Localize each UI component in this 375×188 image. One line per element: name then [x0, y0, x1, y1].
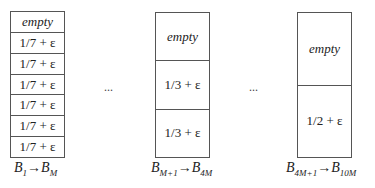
- label-from-base: B: [14, 160, 23, 175]
- bin-group-2: empty 1/3 + ε 1/3 + ε: [155, 12, 210, 158]
- arrow-icon: →: [317, 160, 331, 175]
- label-to-base: B: [41, 160, 50, 175]
- label-from-base: B: [151, 160, 160, 175]
- bin-cell-item: 1/3 + ε: [156, 60, 209, 108]
- label-from-sub: M+1: [160, 168, 178, 178]
- label-from-base: B: [286, 160, 295, 175]
- label-to-sub: 10M: [340, 168, 357, 178]
- bin-cell-item: 1/7 + ε: [11, 32, 64, 53]
- bin-group-3: empty 1/2 + ε: [297, 12, 352, 158]
- bin-group-2-label: BM+1→B4M: [151, 160, 212, 178]
- bin-cell-item: 1/7 + ε: [11, 94, 64, 115]
- bin-cell-item: 1/7 + ε: [11, 74, 64, 95]
- bin-cell-empty: empty: [298, 13, 351, 85]
- bin-cell-item: 1/7 + ε: [11, 136, 64, 157]
- label-to-sub: M: [50, 168, 58, 178]
- bin-group-1: empty 1/7 + ε 1/7 + ε 1/7 + ε 1/7 + ε 1/…: [10, 11, 65, 158]
- arrow-icon: →: [178, 160, 192, 175]
- bin-group-1-label: B1→BM: [14, 160, 57, 178]
- bin-cell-item: 1/2 + ε: [298, 85, 351, 158]
- label-to-sub: 4M: [200, 168, 212, 178]
- bin-cell-item: 1/3 + ε: [156, 109, 209, 157]
- bin-cell-item: 1/7 + ε: [11, 115, 64, 136]
- arrow-icon: →: [27, 160, 41, 175]
- bin-cell-empty: empty: [11, 12, 64, 32]
- ellipsis-1: ...: [104, 80, 113, 95]
- bin-cell-empty: empty: [156, 13, 209, 60]
- label-from-sub: 4M+1: [295, 168, 318, 178]
- label-to-base: B: [192, 160, 201, 175]
- ellipsis-2: ...: [249, 80, 258, 95]
- bin-group-3-label: B4M+1→B10M: [286, 160, 356, 178]
- bin-cell-item: 1/7 + ε: [11, 53, 64, 74]
- label-to-base: B: [331, 160, 340, 175]
